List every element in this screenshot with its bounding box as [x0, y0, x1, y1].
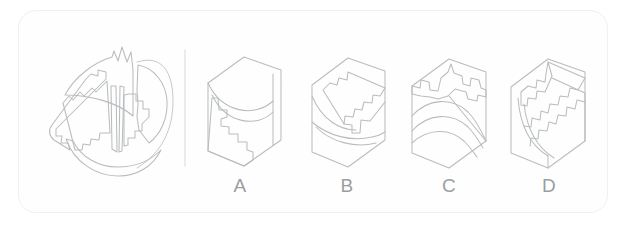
piece-left-stepped-bar [50, 70, 106, 150]
option-c-crown-ridge [412, 64, 486, 101]
option-a-dome-front [212, 95, 273, 121]
option-a-outline [208, 57, 281, 166]
option-b-zigzag-lower [344, 102, 385, 133]
piece-center-sliver [111, 86, 117, 152]
option-a-figure[interactable] [208, 57, 281, 166]
option-a-label: A [233, 175, 246, 196]
option-d-zigzag-parallel [530, 78, 585, 146]
option-c-label: C [442, 175, 456, 196]
option-b-label: B [340, 175, 353, 196]
disc-outer-arc [137, 60, 173, 168]
option-c-arc-lower [412, 131, 477, 157]
option-b-outline [312, 58, 385, 167]
option-d-figure[interactable] [511, 59, 585, 168]
option-a-zigzag-face [208, 98, 253, 166]
piece-bottom-crescent [66, 139, 161, 176]
option-b-figure[interactable] [312, 58, 385, 167]
puzzle-card: A B C [0, 0, 628, 225]
option-a-dome-top [208, 83, 273, 111]
option-b-zigzag-band [323, 72, 385, 124]
piece-top-wedge [65, 47, 133, 116]
option-c-figure[interactable] [412, 59, 486, 168]
option-d-zigzag-diagonal [524, 62, 585, 127]
option-d-step-block [521, 62, 552, 106]
option-d-label: D [542, 175, 556, 196]
option-c-outline [412, 59, 486, 168]
option-b-arc-lower-2 [316, 127, 376, 145]
option-d-curve-sweep [518, 98, 548, 156]
piece-center-sliver-2 [119, 86, 124, 152]
puzzle-canvas: A B C [0, 0, 628, 225]
exploded-assembly-figure [50, 47, 173, 176]
